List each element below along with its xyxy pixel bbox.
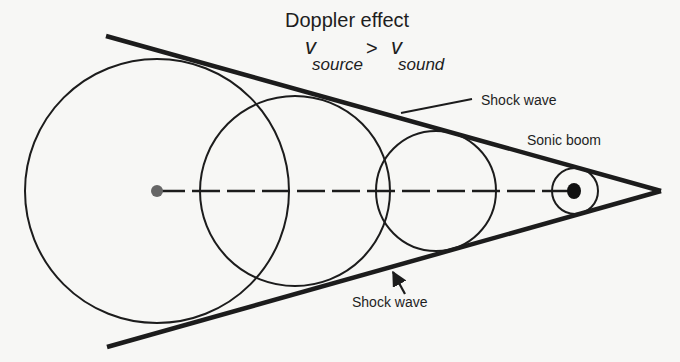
shock-cone-upper-line	[106, 36, 661, 191]
doppler-diagram: Doppler effect v source > v sound Shock …	[0, 0, 680, 362]
shock-cone-lower-line	[107, 191, 661, 347]
diagram-title: Doppler effect	[285, 10, 409, 30]
shock-wave-top-pointer	[401, 99, 472, 113]
shock-wave-top-label: Shock wave	[481, 93, 556, 107]
velocity-source-subscript: source	[312, 56, 363, 73]
source-current-dot	[567, 183, 581, 199]
source-origin-dot	[151, 185, 163, 197]
shock-wave-bottom-arrow	[393, 272, 405, 294]
velocity-sound-subscript: sound	[398, 56, 444, 73]
greater-than-operator: >	[366, 38, 378, 58]
shock-wave-bottom-label: Shock wave	[352, 295, 427, 309]
sonic-boom-label: Sonic boom	[527, 133, 601, 147]
